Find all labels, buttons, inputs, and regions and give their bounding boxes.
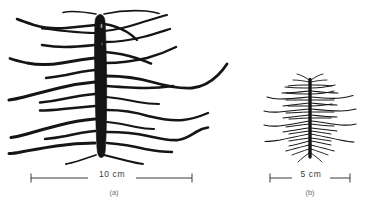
panel-b-label: (b): [305, 188, 315, 197]
panel-b-scale-label: 5 cm: [301, 169, 322, 179]
figure-container: 10 cm (a): [0, 0, 373, 208]
root-system-plate: 10 cm (a): [0, 0, 373, 208]
panel-a-scale-label: 10 cm: [99, 169, 125, 179]
panel-a-taproot-highlight: [101, 24, 103, 28]
panel-a-taproot-highlight-2: [101, 43, 102, 46]
panel-a-label: (a): [109, 188, 119, 197]
panel-a-taproot: [95, 14, 107, 157]
